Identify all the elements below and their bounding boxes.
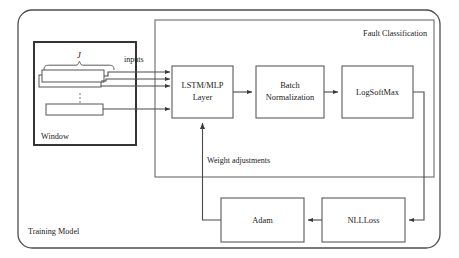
- adam-label: Adam: [252, 216, 273, 225]
- node-nllloss: NLLLoss: [322, 198, 405, 242]
- diagram-canvas: Training Model Fault Classification Wind…: [0, 0, 459, 258]
- window-label: Window: [41, 132, 69, 141]
- training-model-label: Training Model: [28, 227, 80, 236]
- fault-classification-label: Fault Classification: [363, 29, 427, 38]
- logsoftmax-label: LogSoftMax: [356, 88, 400, 97]
- lstm-mlp-layer-label-line1: LSTM/MLP: [182, 81, 224, 90]
- weight-adjustments-label: Weight adjustments: [207, 156, 270, 165]
- batch-normalization-box: [256, 66, 324, 118]
- node-batch-normalization: Batch Normalization: [256, 66, 324, 118]
- inputs-label: inputs: [124, 55, 144, 64]
- node-adam: Adam: [221, 198, 304, 242]
- batch-normalization-label-line1: Batch: [280, 81, 300, 90]
- window-row-front: [42, 70, 104, 82]
- window-row-last: [46, 104, 103, 115]
- container-window: Window J: [34, 42, 136, 145]
- nllloss-label: NLLLoss: [347, 216, 379, 225]
- node-logsoftmax: LogSoftMax: [342, 66, 413, 118]
- batch-normalization-label-line2: Normalization: [266, 93, 315, 102]
- weight-adjustments-line: [203, 123, 222, 220]
- window-border: [34, 42, 136, 145]
- node-lstm-mlp-layer: LSTM/MLP Layer: [172, 66, 233, 118]
- lstm-mlp-layer-label-line2: Layer: [193, 93, 213, 102]
- lstm-mlp-layer-box: [172, 66, 233, 118]
- block-diagram: Training Model Fault Classification Wind…: [0, 0, 459, 258]
